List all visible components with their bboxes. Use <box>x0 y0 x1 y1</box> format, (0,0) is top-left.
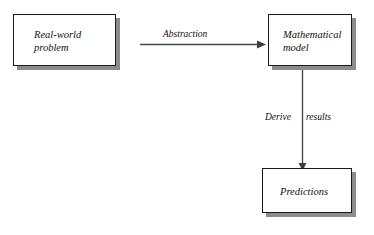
node-mathematical-model-label: Mathematical model <box>283 28 341 54</box>
abstraction-arrow-label: Abstraction <box>163 29 207 39</box>
node-predictions: Predictions <box>262 168 352 213</box>
node-real-world-problem-label: Real-world problem <box>34 28 81 54</box>
derive-results-arrow-label-part-1: Derive <box>265 112 291 122</box>
derive-results-arrow-label-part-2: results <box>306 112 331 122</box>
modeling-flow-diagram: Real-world problem Mathematical model Pr… <box>0 0 374 235</box>
node-mathematical-model: Mathematical model <box>268 14 352 66</box>
node-predictions-label: Predictions <box>280 185 328 198</box>
node-real-world-problem: Real-world problem <box>13 14 116 66</box>
